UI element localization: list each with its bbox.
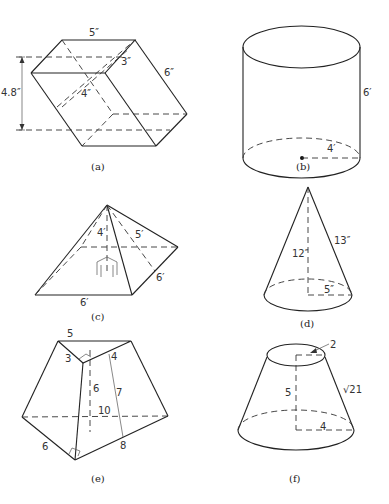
label-a-depth: 3″ xyxy=(121,56,131,67)
label-a-height: 4.8″ xyxy=(1,87,21,98)
label-a-slant: 6″ xyxy=(164,67,174,78)
label-a-inner: 4″ xyxy=(81,88,91,99)
figure-a-parallelepiped: 5″ 3″ 6″ 4″ 4.8″ (a) xyxy=(1,27,187,172)
figure-f-frustum: 2 5 √21 4 (f) xyxy=(238,339,362,484)
label-e-top-right: 4 xyxy=(111,351,117,362)
label-d-height: 12″ xyxy=(292,248,309,259)
figure-b-cylinder: 6′ 4′ (b) xyxy=(243,26,372,178)
caption-b: (b) xyxy=(296,161,310,172)
label-b-height: 6′ xyxy=(363,87,372,98)
label-a-top: 5″ xyxy=(89,27,99,38)
label-f-height: 5 xyxy=(285,387,291,398)
label-c-slant: 5′ xyxy=(135,229,144,240)
label-f-slant: √21 xyxy=(343,384,362,395)
label-e-top: 5 xyxy=(67,328,73,339)
geometry-figures: 5″ 3″ 6″ 4″ 4.8″ (a) 6′ 4′ (b) 4′ 5′ xyxy=(0,0,389,504)
label-e-base-left: 6 xyxy=(42,441,48,452)
label-c-side-front: 6′ xyxy=(80,297,89,308)
caption-e: (e) xyxy=(91,473,105,484)
label-e-slant: 7 xyxy=(116,387,122,398)
caption-c: (c) xyxy=(91,311,105,322)
label-f-top-radius: 2 xyxy=(330,339,336,350)
label-f-bottom-radius: 4 xyxy=(320,421,326,432)
label-c-height: 4′ xyxy=(97,227,106,238)
label-b-radius: 4′ xyxy=(327,143,336,154)
figure-d-cone: 12″ 13″ 5″ (d) xyxy=(264,187,352,329)
label-e-base-right: 8 xyxy=(120,440,126,451)
label-d-radius: 5″ xyxy=(324,284,334,295)
caption-f: (f) xyxy=(289,473,301,484)
caption-d: (d) xyxy=(300,318,314,329)
label-c-side-right: 6′ xyxy=(156,272,165,283)
label-e-height: 6 xyxy=(93,383,99,394)
caption-a: (a) xyxy=(91,161,105,172)
label-d-slant: 13″ xyxy=(334,235,351,246)
figure-c-pyramid: 4′ 5′ 6′ 6′ (c) xyxy=(35,205,178,322)
figure-e-truncated-prism: 5 3 4 6 7 10 6 8 (e) xyxy=(22,328,168,484)
label-e-base-back: 10 xyxy=(98,405,111,416)
label-e-top-left: 3 xyxy=(65,353,71,364)
